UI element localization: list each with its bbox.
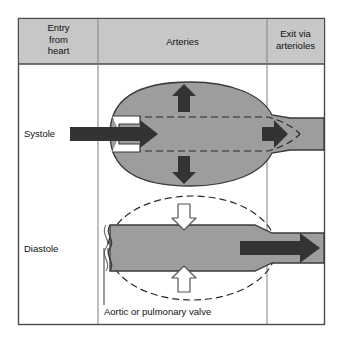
row-label-systole: Systole — [24, 128, 55, 139]
valve-callout-label: Aortic or pulmonary valve — [104, 306, 211, 317]
header-arteries: Arteries — [166, 36, 199, 47]
header-exit-line-2: arterioles — [276, 40, 315, 51]
header-entry-line-3: heart — [48, 45, 70, 56]
arterial-pressure-diagram: Entry from heart Arteries Exit via arter… — [0, 0, 343, 346]
header-exit-line-1: Exit via — [280, 28, 311, 39]
header-entry-line-1: Entry — [47, 22, 69, 33]
row-label-diastole: Diastole — [24, 243, 58, 254]
header-entry-line-2: from — [49, 34, 68, 45]
figure-root: Entry from heart Arteries Exit via arter… — [0, 0, 343, 346]
